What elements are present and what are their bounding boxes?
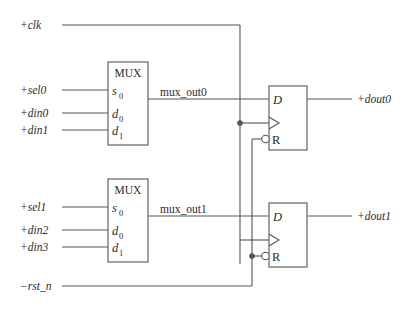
mux1-pin-d0-base: d	[112, 224, 119, 238]
sel1-port-label: +sel1	[20, 201, 46, 213]
dff0-reset-bubble-icon	[262, 135, 270, 143]
mux1-pin-d0-sub: 0	[119, 231, 123, 241]
din2-port-label: +din2	[20, 224, 48, 236]
rst-junction-dot-dff1	[249, 253, 254, 258]
mux0-pin-d1-sub: 1	[119, 131, 123, 141]
dff1-reset-bubble-icon	[262, 252, 270, 260]
mux0-pin-d1-base: d	[112, 124, 119, 138]
circuit-schematic: +clk +sel0 +din0 +din1 +sel1 +din2 +din3…	[0, 0, 415, 313]
din3-port-label: +din3	[20, 241, 48, 253]
mux0-pin-d0-base: d	[112, 107, 119, 121]
mux0-pin-s0-sub: 0	[119, 91, 123, 101]
rst-n-port-label: −rst_n	[20, 280, 52, 292]
dff1-r-pin-label: R	[272, 250, 281, 264]
dout1-port-label: +dout1	[357, 210, 391, 222]
mux1-pin-s0-base: s	[112, 201, 117, 215]
dff0-r-pin-label: R	[272, 133, 281, 147]
mux-out0-net-label: mux_out0	[160, 86, 207, 98]
dff0-clock-triangle-icon	[269, 117, 279, 129]
dout0-port-label: +dout0	[357, 93, 391, 105]
mux1-pin-s0-sub: 0	[119, 208, 123, 218]
sel0-port-label: +sel0	[20, 84, 47, 96]
mux1-pin-d1-sub: 1	[119, 248, 123, 258]
mux0-pin-s0-base: s	[112, 84, 117, 98]
clk-port-label: +clk	[20, 19, 42, 31]
dff0-d-pin-label: D	[272, 93, 282, 107]
mux1-pin-d1-base: d	[112, 241, 119, 255]
din0-port-label: +din0	[20, 107, 48, 119]
mux0-title: MUX	[115, 67, 143, 79]
mux0-pin-d0-sub: 0	[119, 114, 123, 124]
din1-port-label: +din1	[20, 124, 48, 136]
dff1-clock-triangle-icon	[269, 234, 279, 246]
mux1-title: MUX	[115, 184, 143, 196]
mux-out1-net-label: mux_out1	[160, 203, 207, 215]
clk-junction-dot-dff0	[237, 120, 242, 125]
dff1-d-pin-label: D	[272, 210, 282, 224]
schematic-canvas: +clk +sel0 +din0 +din1 +sel1 +din2 +din3…	[0, 0, 415, 313]
